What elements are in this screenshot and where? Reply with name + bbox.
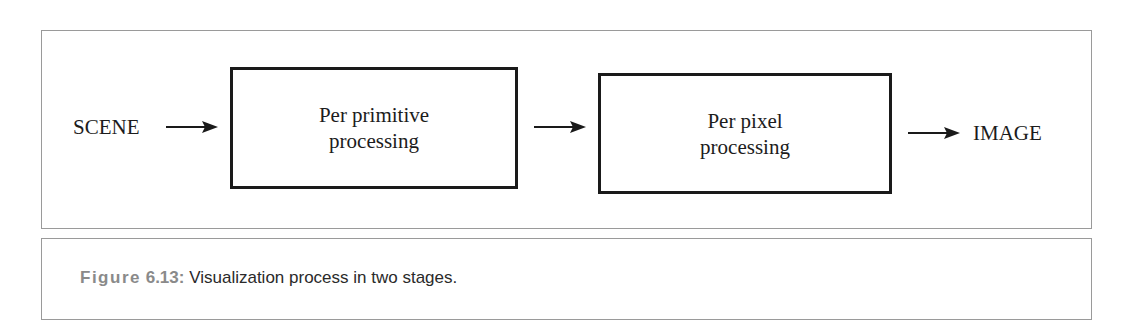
- figure-caption: Figure 6.13: Visualization process in tw…: [80, 268, 457, 288]
- stage2-line2: processing: [700, 134, 790, 160]
- scene-label: SCENE: [73, 115, 140, 139]
- stage1-line1: Per primitive: [319, 102, 429, 128]
- arrow-right-icon: [908, 126, 960, 140]
- stage2-line1: Per pixel: [700, 108, 790, 134]
- caption-figure-word: Figure: [80, 268, 141, 287]
- per-primitive-processing-box: Per primitive processing: [230, 67, 518, 189]
- arrow-right-icon: [166, 120, 218, 134]
- arrow-right-icon: [534, 120, 586, 134]
- per-pixel-processing-box: Per pixel processing: [598, 73, 892, 194]
- stage1-line2: processing: [319, 128, 429, 154]
- caption-text: Visualization process in two stages.: [189, 268, 457, 287]
- caption-figure-number: 6.13:: [146, 268, 185, 287]
- image-label: IMAGE: [973, 121, 1042, 145]
